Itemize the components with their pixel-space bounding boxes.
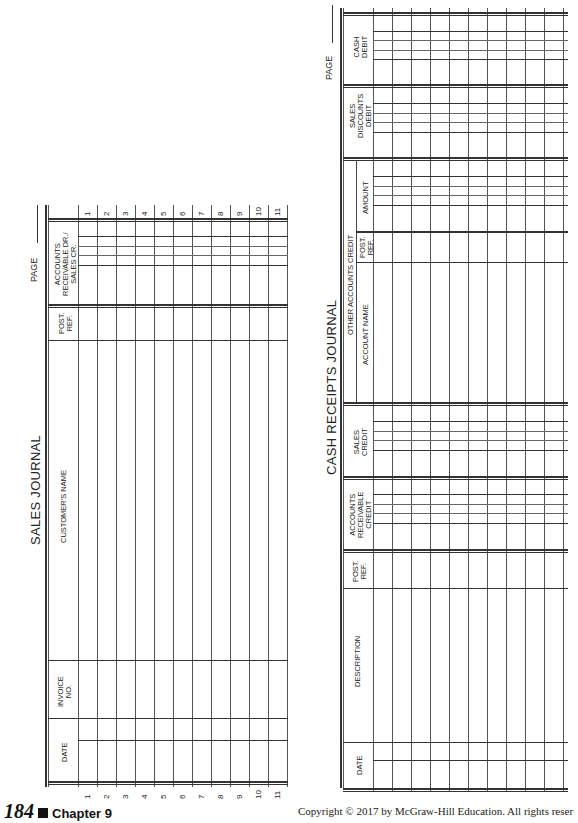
header-line: CREDIT	[361, 428, 369, 456]
header-line: CREDIT	[365, 491, 373, 538]
divider	[78, 236, 288, 237]
header-line: NO.	[65, 676, 73, 707]
divider	[373, 205, 568, 206]
divider	[48, 307, 288, 308]
divider	[373, 186, 568, 187]
divider	[48, 218, 288, 220]
row-line	[287, 205, 288, 787]
page-footer: 184Chapter 9	[4, 800, 112, 823]
divider	[373, 40, 568, 41]
header-post-ref: POST. REF.	[352, 560, 368, 582]
row-number: 10	[254, 207, 263, 216]
divider	[373, 103, 568, 104]
header-description: DESCRIPTION	[354, 636, 362, 687]
sales-journal-page-label: PAGE	[30, 258, 38, 282]
divider	[343, 549, 568, 551]
row-number: 6	[178, 212, 187, 216]
divider	[373, 450, 568, 451]
divider	[356, 160, 357, 402]
divider	[78, 246, 288, 247]
row-number: 9	[235, 795, 244, 799]
divider	[343, 476, 568, 478]
border	[45, 205, 47, 787]
header-line: REF.	[66, 312, 74, 334]
divider	[373, 440, 568, 441]
header-amount: AMOUNT	[362, 182, 370, 215]
sales-journal-page-field[interactable]	[37, 205, 38, 243]
header-line: DEBIT	[361, 36, 369, 58]
divider	[343, 788, 568, 790]
divider	[373, 513, 568, 514]
chapter-label: Chapter 9	[52, 806, 112, 821]
row-number: 4	[140, 212, 149, 216]
row-number: 1	[83, 795, 92, 799]
divider	[48, 660, 288, 661]
row-number: 2	[102, 795, 111, 799]
header-date: DATE	[61, 743, 69, 762]
header-ar-credit: ACCOUNTS RECEIVABLE CREDIT	[349, 491, 373, 538]
header-post-ref: POST. REF.	[58, 312, 74, 334]
divider	[78, 265, 288, 266]
row-number: 4	[140, 795, 149, 799]
divider	[48, 340, 288, 341]
divider	[373, 421, 568, 422]
header-line: REF.	[360, 560, 368, 582]
row-number: 9	[235, 212, 244, 216]
divider	[343, 160, 568, 161]
divider	[373, 59, 568, 60]
divider	[343, 157, 568, 159]
divider	[343, 742, 568, 743]
divider	[373, 31, 568, 32]
row-number: 2	[102, 212, 111, 216]
divider	[343, 12, 568, 14]
header-line: SALES CR.	[70, 232, 78, 296]
header-line: REF.	[367, 236, 375, 258]
divider	[78, 740, 288, 741]
row-number: 6	[178, 795, 187, 799]
divider	[48, 304, 288, 306]
divider	[48, 718, 288, 719]
divider	[343, 15, 568, 16]
divider	[373, 113, 568, 114]
divider	[356, 262, 568, 263]
divider	[48, 221, 288, 222]
row-number: 5	[159, 212, 168, 216]
divider	[78, 255, 288, 256]
divider	[373, 504, 568, 505]
divider	[373, 176, 568, 177]
divider	[343, 588, 568, 589]
divider	[373, 50, 568, 51]
cash-receipts-page-field[interactable]	[332, 5, 333, 43]
row-number: 7	[197, 795, 206, 799]
header-sales-credit: SALES CREDIT	[353, 428, 369, 456]
row-number: 10	[254, 790, 263, 799]
header-ar-dr-sales-cr: ACCOUNTS RECEIVABLE DR./ SALES CR.	[54, 232, 78, 296]
divider	[373, 760, 568, 761]
row-number: 8	[216, 212, 225, 216]
header-invoice-no: INVOICE NO.	[57, 676, 73, 707]
cash-receipts-page-label: PAGE	[325, 56, 333, 80]
divider	[356, 231, 568, 233]
divider	[343, 402, 568, 404]
divider	[373, 523, 568, 524]
header-account-name: ACCOUNT NAME	[362, 304, 370, 365]
cash-receipts-journal-title: CASH RECEIPTS JOURNAL	[324, 300, 339, 475]
copyright-notice: Copyright © 2017 by McGraw-Hill Educatio…	[298, 805, 573, 817]
row-number: 3	[121, 795, 130, 799]
divider	[373, 132, 568, 133]
divider	[343, 84, 568, 86]
header-oa-post-ref: POST. REF.	[359, 236, 375, 258]
divider	[373, 195, 568, 196]
divider	[48, 781, 288, 783]
divider	[373, 431, 568, 432]
row-number: 8	[216, 795, 225, 799]
header-customer-name: CUSTOMER'S NAME	[60, 470, 68, 543]
sales-journal-title: SALES JOURNAL	[28, 435, 43, 545]
row-number: 5	[159, 795, 168, 799]
header-line: DEBIT	[365, 94, 373, 138]
divider	[373, 122, 568, 123]
row-number: 11	[273, 791, 282, 799]
border	[48, 205, 49, 787]
divider	[343, 791, 568, 792]
divider	[48, 784, 288, 785]
